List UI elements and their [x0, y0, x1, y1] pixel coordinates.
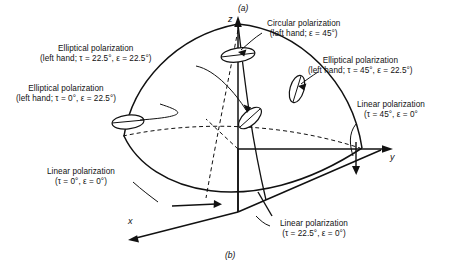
arc-x-to-y [124, 136, 362, 192]
sphere-octant-drawing [0, 0, 462, 271]
annotation-line2: (left hand; τ = 0°, ε = 22.5°) [16, 94, 116, 104]
figure-caption-top: (a) [238, 3, 248, 13]
y-axis-horizontal [238, 145, 393, 153]
annotation-elliptical-45-22: Elliptical polarization (left hand; τ = … [308, 56, 413, 77]
ellipse-glyph-circular [220, 46, 256, 65]
figure-caption-bottom: (b) [225, 250, 235, 260]
annotation-line2: (τ = 45°, ε = 0° [357, 110, 425, 120]
annotation-line2: (τ = 0°, ε = 0°) [47, 177, 115, 187]
polarization-sphere-figure: Elliptical polarization (left hand; τ = … [0, 0, 462, 271]
annotation-elliptical-22-22: Elliptical polarization (left hand; τ = … [40, 44, 152, 65]
annotation-line1: Linear polarization [280, 219, 348, 229]
annotation-elliptical-0-22: Elliptical polarization (left hand; τ = … [16, 84, 116, 105]
axis-label-y: y [390, 152, 395, 162]
annotation-line2: (left hand; τ = 22.5°, ε = 22.5°) [40, 54, 152, 64]
x-axis [128, 212, 238, 243]
annotation-line1: Elliptical polarization [308, 56, 413, 66]
annotation-linear-45-0: Linear polarization (τ = 45°, ε = 0° [357, 100, 425, 121]
annotation-line1: Elliptical polarization [40, 44, 152, 54]
ellipse-glyph-linear-45-0 [352, 142, 360, 175]
annotation-circular-45: Circular polarization (left hand; ε = 45… [267, 19, 340, 40]
annotation-line2: (left hand; τ = 45°, ε = 22.5°) [308, 66, 413, 76]
annotation-line2: (left hand; ε = 45°) [267, 29, 340, 39]
annotation-line1: Circular polarization [267, 19, 340, 29]
annotation-line1: Linear polarization [47, 167, 115, 177]
axis-label-x: x [128, 216, 133, 226]
axis-label-z: z [228, 14, 233, 24]
annotation-linear-0-0: Linear polarization (τ = 0°, ε = 0°) [47, 167, 115, 188]
annotation-line1: Elliptical polarization [16, 84, 116, 94]
annotation-line1: Linear polarization [357, 100, 425, 110]
ellipse-glyph-linear-0-0 [172, 200, 222, 208]
annotation-linear-22-0: Linear polarization (τ = 22.5°, ε = 0°) [280, 219, 348, 240]
y-axis [238, 150, 381, 212]
annotation-line2: (τ = 22.5°, ε = 0°) [280, 229, 348, 239]
ellipse-glyph-elliptical-0-22 [111, 113, 144, 130]
